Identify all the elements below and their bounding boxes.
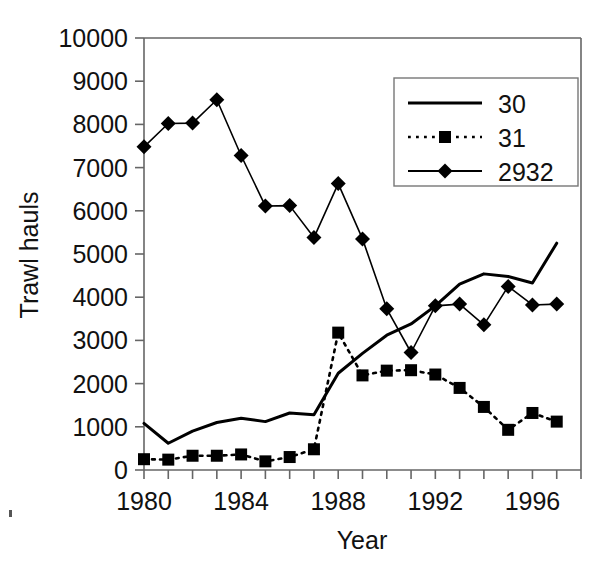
- data-point-31: [187, 450, 199, 462]
- y-tick-label: 2000: [72, 370, 128, 398]
- y-tick-label: 1000: [72, 413, 128, 441]
- y-tick-label: 3000: [72, 326, 128, 354]
- x-tick-label: 1984: [213, 487, 269, 515]
- x-tick-label: 1980: [116, 487, 172, 515]
- data-point-31: [454, 382, 466, 394]
- legend-label-31: 31: [498, 124, 526, 152]
- chart-figure: 0100020003000400050006000700080009000100…: [0, 0, 615, 582]
- data-point-31: [551, 416, 563, 428]
- data-point-31: [284, 451, 296, 463]
- y-tick-label: 10000: [58, 24, 128, 52]
- y-tick-label: 5000: [72, 240, 128, 268]
- data-point-31: [235, 448, 247, 460]
- y-tick-label: 4000: [72, 283, 128, 311]
- scan-artifact-speck: [9, 510, 12, 517]
- x-axis-title: Year: [337, 526, 388, 554]
- data-point-31: [138, 453, 150, 465]
- legend-marker-31: [439, 131, 451, 143]
- y-tick-label: 8000: [72, 110, 128, 138]
- data-point-31: [526, 407, 538, 419]
- data-point-31: [357, 369, 369, 381]
- x-tick-label: 1988: [310, 487, 366, 515]
- data-point-31: [332, 327, 344, 339]
- data-point-31: [429, 369, 441, 381]
- legend-label-2932: 2932: [498, 158, 554, 186]
- data-point-31: [162, 454, 174, 466]
- data-point-31: [259, 455, 271, 467]
- y-tick-label: 0: [114, 456, 128, 484]
- x-tick-label: 1996: [505, 487, 561, 515]
- x-tick-label: 1992: [408, 487, 464, 515]
- y-axis-title: Trawl hauls: [15, 192, 43, 319]
- data-point-31: [308, 443, 320, 455]
- data-point-31: [502, 424, 514, 436]
- y-tick-label: 6000: [72, 197, 128, 225]
- data-point-31: [211, 450, 223, 462]
- legend-label-30: 30: [498, 90, 526, 118]
- data-point-31: [405, 364, 417, 376]
- y-tick-label: 7000: [72, 154, 128, 182]
- legend: 30312932: [394, 78, 578, 186]
- data-point-31: [478, 401, 490, 413]
- data-point-31: [381, 365, 393, 377]
- y-tick-label: 9000: [72, 67, 128, 95]
